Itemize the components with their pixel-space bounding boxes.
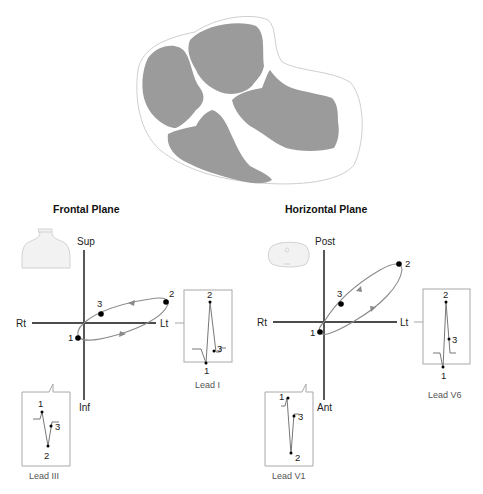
lead-v6-point-2: 2 [443, 289, 448, 300]
loop-point-1 [75, 335, 81, 341]
lead-v6-point-3: 3 [452, 334, 457, 345]
lead-i-point-3: 3 [217, 343, 222, 354]
loop-direction-arrow [370, 306, 376, 312]
lead-v1-label: Lead V1 [272, 471, 306, 481]
axis-label-inf: Inf [79, 402, 90, 413]
axis-label-lt-horizontal: Lt [400, 317, 409, 328]
lead-i-label: Lead I [195, 380, 220, 390]
axis-label-sup: Sup [77, 236, 95, 247]
lead-iii-point-3: 3 [55, 421, 60, 432]
axis-label-ant: Ant [317, 402, 332, 413]
lead-v1-point-1: 1 [279, 391, 284, 402]
lead-v1-point-2: 2 [295, 452, 300, 463]
loop-point-2 [163, 299, 169, 305]
axis-label-rt: Rt [16, 318, 26, 329]
thorax-cross-section-icon [268, 242, 309, 267]
loop-point-label-1: 1 [68, 332, 73, 343]
torso-icon [22, 229, 70, 268]
loop-point-label-3: 3 [337, 288, 342, 299]
lead-iii-label: Lead III [29, 471, 59, 481]
loop-direction-arrow [356, 286, 362, 292]
lead-v6-box: 2 1 3 Lead V6 [414, 289, 470, 400]
lead-iii-box: 1 2 3 Lead III [22, 384, 70, 481]
frontal-plane-title: Frontal Plane [53, 203, 120, 215]
frontal-plane-panel: Frontal Plane Sup Inf Rt Lt 1 2 3 [16, 203, 232, 481]
loop-point-2 [396, 261, 402, 267]
loop-point-label-3: 3 [97, 298, 102, 309]
axis-label-post: Post [315, 236, 335, 247]
loop-point-3 [338, 301, 344, 307]
loop-point-label-2: 2 [405, 258, 410, 269]
lead-v6-label: Lead V6 [428, 390, 462, 400]
loop-direction-arrow [128, 300, 135, 306]
loop-point-3 [98, 311, 104, 317]
lead-i-box: 2 1 3 Lead I [175, 289, 232, 390]
axis-label-rt-horizontal: Rt [257, 317, 267, 328]
lead-i-point-1: 1 [204, 365, 209, 376]
loop-point-label-2: 2 [169, 288, 174, 299]
heart-illustration [137, 16, 362, 183]
horizontal-plane-title: Horizontal Plane [285, 203, 367, 215]
lead-iii-point-2: 2 [44, 450, 49, 461]
axis-label-lt: Lt [160, 318, 169, 329]
lead-v6-point-1: 1 [441, 370, 446, 381]
lead-i-point-2: 2 [207, 289, 212, 300]
lead-v1-box: 1 2 3 Lead V1 [265, 384, 313, 481]
loop-point-label-1: 1 [310, 327, 315, 338]
lead-v1-point-3: 3 [298, 411, 303, 422]
lead-iii-point-1: 1 [38, 398, 43, 409]
loop-point-1 [317, 329, 323, 335]
horizontal-plane-panel: Horizontal Plane Post Ant Rt Lt 1 2 3 [257, 203, 470, 481]
horizontal-vector-loop: 1 2 3 [310, 258, 410, 338]
vectorcardiogram-figure: Frontal Plane Sup Inf Rt Lt 1 2 3 [0, 0, 483, 494]
